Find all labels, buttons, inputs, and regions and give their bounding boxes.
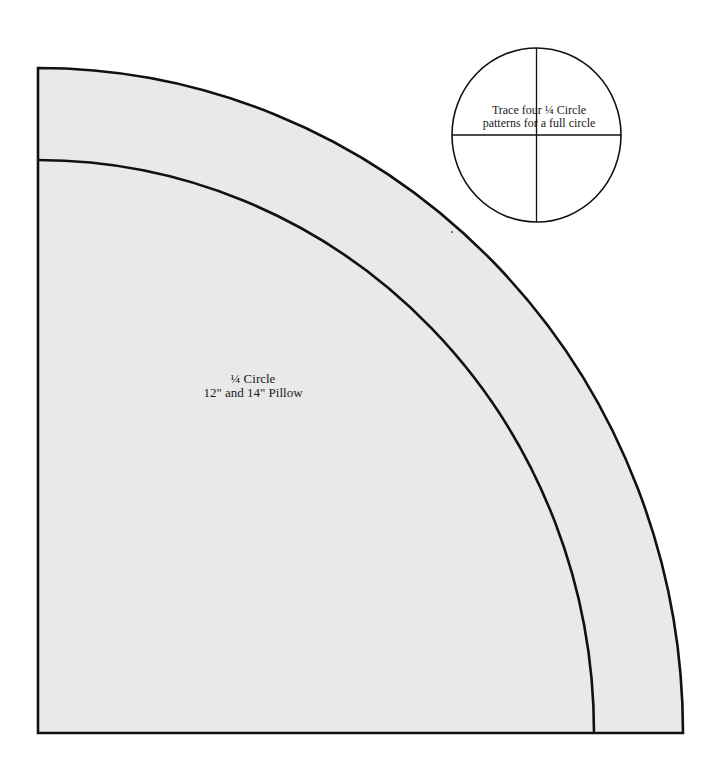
guide-label-line2: patterns for a full circle — [466, 117, 612, 130]
pattern-subtitle: 12" and 14" Pillow — [173, 386, 333, 400]
full-circle-guide-label: Trace four ¼ Circle patterns for a full … — [466, 104, 612, 130]
pattern-piece-label: ¼ Circle 12" and 14" Pillow — [173, 372, 333, 400]
full-circle-guide — [452, 48, 621, 222]
scan-speck — [451, 231, 453, 233]
pattern-title: ¼ Circle — [173, 372, 333, 386]
